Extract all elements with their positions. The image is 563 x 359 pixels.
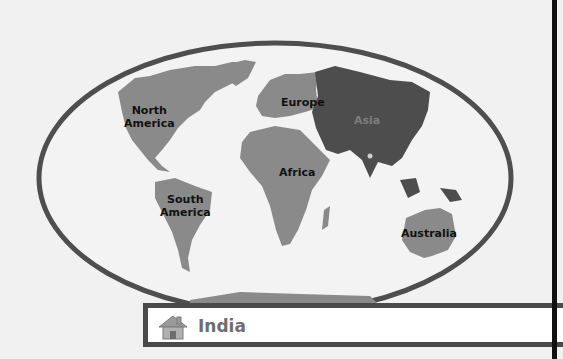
label-north-america: North America — [124, 104, 175, 130]
india-marker — [368, 154, 373, 159]
label-australia: Australia — [401, 227, 457, 240]
home-icon — [158, 314, 188, 340]
label-europe: Europe — [281, 96, 325, 109]
world-map: North America South America Europe Afric… — [0, 0, 557, 310]
location-bar: India — [143, 303, 563, 347]
label-africa: Africa — [279, 166, 315, 179]
right-edge-strip — [552, 0, 557, 359]
label-south-america: South America — [160, 193, 211, 219]
label-asia: Asia — [354, 114, 380, 127]
location-name: India — [198, 316, 246, 336]
world-map-graphic — [0, 0, 557, 310]
